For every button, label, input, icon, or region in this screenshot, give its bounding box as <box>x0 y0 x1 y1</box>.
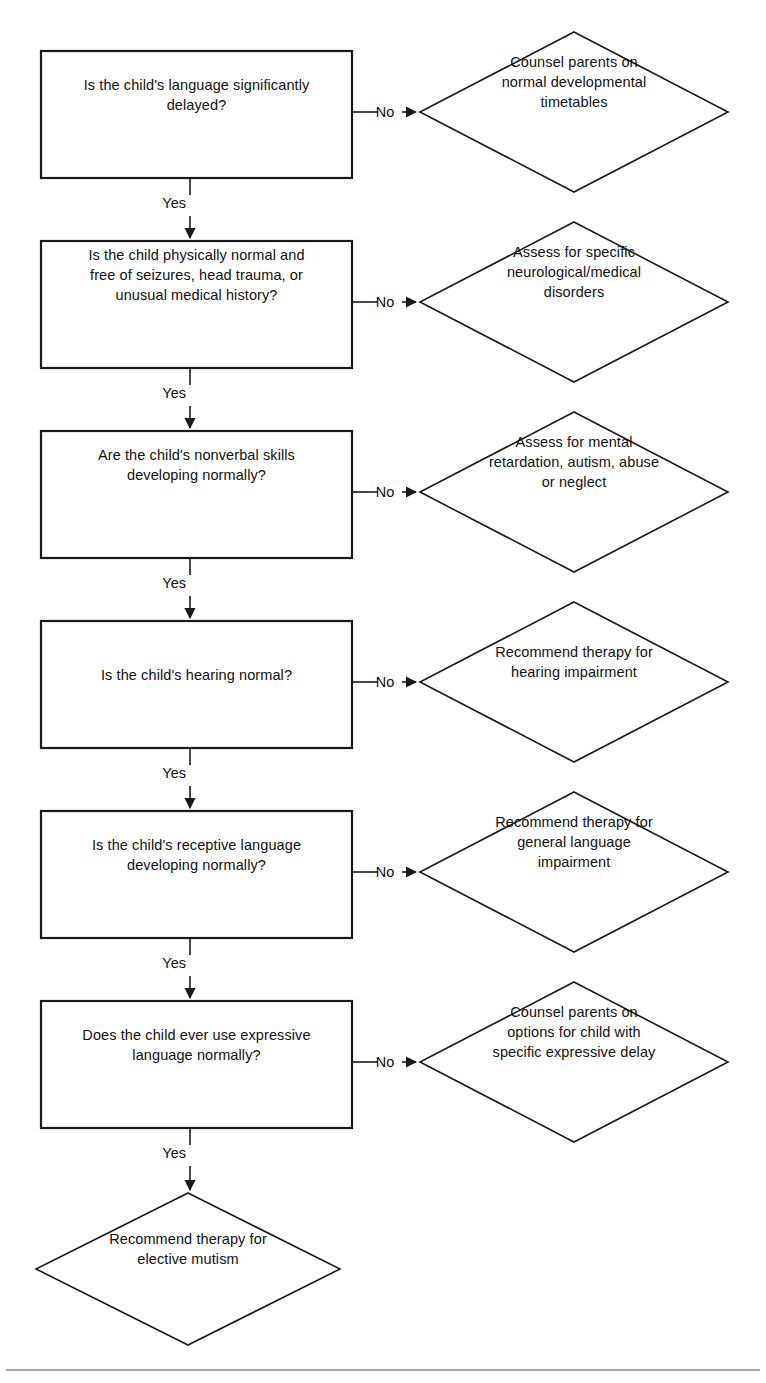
outcome-diamond-o4[interactable] <box>420 602 728 762</box>
edge-label-no-q4: No <box>371 674 399 690</box>
flowchart-canvas <box>0 0 766 1383</box>
outcome-diamond-o5[interactable] <box>420 792 728 952</box>
edge-label-yes-q1: Yes <box>156 195 186 211</box>
outcome-diamond-o6[interactable] <box>420 982 728 1142</box>
final-outcome-diamond[interactable] <box>36 1193 340 1345</box>
edge-label-yes-q5: Yes <box>156 955 186 971</box>
outcome-diamond-o2[interactable] <box>420 222 728 382</box>
outcome-diamond-o3[interactable] <box>420 412 728 572</box>
edge-label-yes-q6: Yes <box>156 1145 186 1161</box>
question-box-q5[interactable] <box>41 811 352 938</box>
edge-label-yes-q4: Yes <box>156 765 186 781</box>
question-box-q2[interactable] <box>41 241 352 368</box>
question-box-q1[interactable] <box>41 51 352 178</box>
outcome-diamond-o1[interactable] <box>420 32 728 192</box>
edge-label-no-q5: No <box>371 864 399 880</box>
question-box-q4[interactable] <box>41 621 352 748</box>
edge-label-no-q1: No <box>371 104 399 120</box>
edge-label-no-q6: No <box>371 1054 399 1070</box>
question-box-q6[interactable] <box>41 1001 352 1128</box>
edge-label-no-q2: No <box>371 294 399 310</box>
question-box-q3[interactable] <box>41 431 352 558</box>
edge-label-no-q3: No <box>371 484 399 500</box>
edge-label-yes-q2: Yes <box>156 385 186 401</box>
edge-label-yes-q3: Yes <box>156 575 186 591</box>
